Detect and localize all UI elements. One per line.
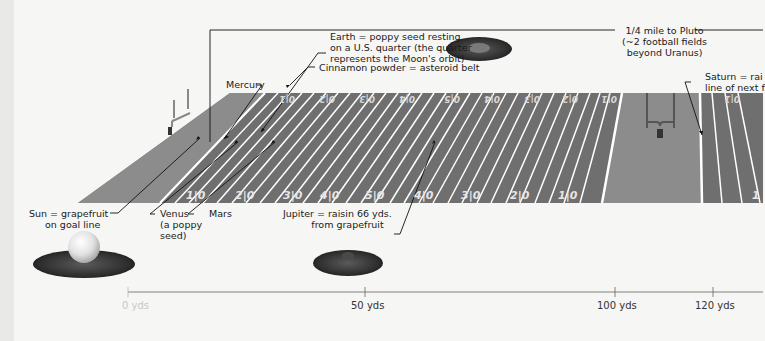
sun-label-line2: on goal line	[29, 219, 100, 230]
axis-tick-120: 120 yds	[695, 300, 735, 311]
svg-text:1|0: 1|0	[558, 189, 578, 202]
svg-text:0|1: 0|1	[279, 94, 295, 104]
saturn-label-line1: Saturn = rai	[705, 71, 765, 82]
svg-text:3|0: 3|0	[461, 189, 481, 202]
pluto-label: 1/4 mile to Pluto (~2 football fields be…	[622, 25, 707, 58]
svg-text:4|0: 4|0	[413, 189, 434, 202]
svg-text:0|1: 0|1	[724, 94, 740, 104]
axis-tick-100: 100 yds	[597, 300, 637, 311]
mercury-label: Mercury	[226, 79, 265, 90]
venus-label-line2: (a poppy	[160, 219, 202, 230]
asteroid-belt-label: Cinnamon powder = asteroid belt	[319, 62, 479, 73]
svg-text:0|4: 0|4	[399, 94, 415, 104]
saturn-label-line2: line of next f	[705, 82, 765, 93]
sun-label-line1: Sun = grapefruit	[29, 208, 108, 219]
axis-tick-50: 50 yds	[351, 300, 384, 311]
distance-axis	[128, 287, 763, 297]
mars-label: Mars	[209, 208, 232, 219]
svg-text:0|4: 0|4	[484, 94, 500, 104]
jupiter-label-line2: from grapefruit	[283, 219, 384, 230]
svg-text:4|0: 4|0	[319, 189, 340, 202]
venus-label-line1: Venus	[160, 208, 202, 219]
svg-text:0|2: 0|2	[319, 94, 335, 104]
field	[78, 93, 763, 203]
svg-text:1|0: 1|0	[186, 189, 206, 202]
venus-label: Venus (a poppy seed)	[160, 208, 202, 241]
svg-text:3|0: 3|0	[283, 189, 303, 202]
svg-text:0|2: 0|2	[562, 94, 578, 104]
earth-label-line1: Earth = poppy seed resting	[330, 31, 472, 42]
venus-label-line3: seed)	[160, 230, 202, 241]
jupiter-label: Jupiter = raisin 66 yds. from grapefruit	[283, 208, 392, 230]
jupiter-label-line1: Jupiter = raisin 66 yds.	[283, 208, 392, 219]
svg-text:2|0: 2|0	[235, 189, 255, 202]
grapefruit-on-grass-icon	[33, 231, 135, 278]
svg-text:2|0: 2|0	[510, 189, 530, 202]
earth-label-line2: on a U.S. quarter (the quarter	[330, 42, 472, 53]
raisin-on-grass-icon	[313, 250, 383, 276]
pluto-label-line2: (~2 football fields	[622, 36, 707, 47]
axis-tick-0: 0 yds	[122, 300, 149, 311]
svg-text:0|5: 0|5	[444, 94, 460, 104]
sun-label: Sun = grapefruit on goal line	[29, 208, 108, 230]
pluto-label-line1: 1/4 mile to Pluto	[622, 25, 707, 36]
saturn-label: Saturn = rai line of next f	[705, 71, 765, 93]
pluto-label-line3: beyond Uranus)	[622, 47, 707, 58]
svg-text:0|1: 0|1	[601, 94, 617, 104]
svg-text:0|3: 0|3	[524, 94, 540, 104]
svg-text:5|0: 5|0	[365, 189, 385, 202]
svg-text:1: 1	[752, 189, 760, 202]
svg-text:0|3: 0|3	[359, 94, 375, 104]
earth-label: Earth = poppy seed resting on a U.S. qua…	[330, 31, 472, 64]
